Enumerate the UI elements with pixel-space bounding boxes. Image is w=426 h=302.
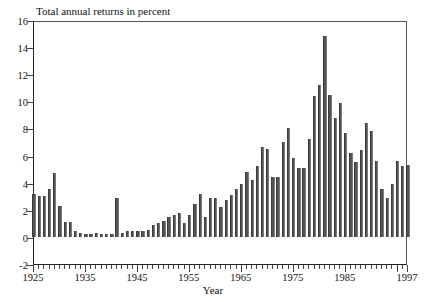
y-axis-tick [27, 211, 33, 212]
x-axis-tick [116, 265, 117, 269]
y-axis-tick-label: 0 [6, 232, 28, 243]
bar [152, 225, 155, 237]
y-axis-tick-label: 14 [6, 43, 28, 54]
bar [69, 222, 72, 237]
x-axis-tick [293, 265, 294, 272]
x-axis-tick [308, 265, 309, 269]
y-axis-tick-label: 12 [6, 70, 28, 81]
bar [126, 231, 129, 236]
x-axis-tick [360, 265, 361, 269]
x-axis-tick [277, 265, 278, 269]
bar [199, 194, 202, 237]
bar [261, 147, 264, 236]
bar [282, 142, 285, 237]
bar [339, 103, 342, 237]
bar [230, 195, 233, 237]
bar [396, 161, 399, 237]
bar-chart: Total annual returns in percent 16141210… [0, 0, 426, 302]
bar [245, 172, 248, 237]
bar [334, 118, 337, 237]
bar [43, 196, 46, 237]
x-axis-tick [199, 265, 200, 269]
bar [188, 215, 191, 237]
x-axis-tick-label: 1965 [230, 272, 251, 283]
x-axis-tick [256, 265, 257, 269]
x-axis-tick [386, 265, 387, 269]
bar [360, 150, 363, 237]
x-axis-tick [204, 265, 205, 269]
bar [53, 173, 56, 237]
bar [370, 131, 373, 237]
x-axis-tick [334, 265, 335, 269]
x-axis-tick [33, 265, 34, 272]
x-axis-tick [168, 265, 169, 269]
bar [131, 231, 134, 236]
bar [251, 180, 254, 237]
y-axis-tick [27, 21, 33, 22]
x-axis-tick [106, 265, 107, 269]
x-axis-tick-label: 1935 [74, 272, 95, 283]
bar [95, 233, 98, 237]
bar [256, 166, 259, 236]
bar [79, 233, 82, 237]
bar [214, 198, 217, 237]
bar [136, 231, 139, 236]
bar [386, 198, 389, 237]
bar [365, 123, 368, 237]
x-axis-tick [355, 265, 356, 269]
bar [193, 204, 196, 237]
bar [266, 149, 269, 237]
y-axis-tick-label: 10 [6, 97, 28, 108]
x-axis-tick [111, 265, 112, 269]
bar [380, 189, 383, 236]
bar [141, 231, 144, 236]
y-axis-tick [27, 48, 33, 49]
x-axis-tick [38, 265, 39, 269]
x-axis-tick [241, 265, 242, 272]
x-axis-tick [329, 265, 330, 269]
x-axis-tick [324, 265, 325, 269]
x-axis-tick [345, 265, 346, 272]
y-axis-tick-label: 2 [6, 205, 28, 216]
x-axis-tick [132, 265, 133, 269]
bar [183, 223, 186, 237]
y-axis-tick [27, 75, 33, 76]
bar [167, 217, 170, 237]
x-axis-tick [69, 265, 70, 269]
x-axis-tick [85, 265, 86, 272]
bar [204, 217, 207, 237]
x-axis-tick [272, 265, 273, 269]
x-axis-tick-label: 1975 [282, 272, 303, 283]
x-axis-tick-label: 1985 [334, 272, 355, 283]
bar [48, 189, 51, 236]
y-axis-tick [27, 102, 33, 103]
y-axis-tick-label: 4 [6, 178, 28, 189]
x-axis-tick [371, 265, 372, 269]
x-axis-tick [59, 265, 60, 269]
bar [225, 200, 228, 237]
x-axis-tick [142, 265, 143, 269]
bars-layer [34, 22, 406, 264]
bar [235, 189, 238, 236]
y-axis-tick [27, 157, 33, 158]
x-axis-tick [319, 265, 320, 269]
bar [84, 234, 87, 237]
bar [89, 234, 92, 237]
x-axis-tick [262, 265, 263, 269]
bar [209, 198, 212, 237]
y-axis-tick-label: 16 [6, 16, 28, 27]
x-axis-tick [251, 265, 252, 269]
x-axis-tick [80, 265, 81, 269]
bar [401, 166, 404, 236]
x-axis-tick [121, 265, 122, 269]
bar [100, 234, 103, 237]
x-axis-tick-label: 1997 [397, 272, 418, 283]
x-axis-tick [220, 265, 221, 269]
x-axis-tick [152, 265, 153, 269]
plot-area [33, 21, 407, 265]
x-axis-tick [137, 265, 138, 272]
bar [64, 222, 67, 237]
y-axis-tick-label: -2 [6, 260, 28, 271]
bar [219, 207, 222, 237]
bar [375, 161, 378, 237]
